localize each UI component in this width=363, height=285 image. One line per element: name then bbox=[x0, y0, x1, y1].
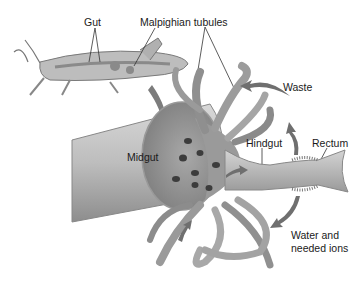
label-water-line1: Water and bbox=[291, 229, 339, 241]
reabsorb-arrow-up bbox=[286, 122, 298, 155]
label-waste: Waste bbox=[283, 81, 312, 93]
label-gut: Gut bbox=[84, 16, 101, 28]
label-malpighian-tubules: Malpighian tubules bbox=[140, 16, 228, 28]
label-water-line2: needed ions bbox=[291, 242, 348, 254]
grasshopper-illustration bbox=[14, 38, 188, 95]
label-rectum: Rectum bbox=[312, 137, 348, 149]
label-hindgut: Hindgut bbox=[246, 137, 282, 149]
reabsorb-arrow-down bbox=[270, 196, 300, 228]
label-midgut: Midgut bbox=[127, 151, 159, 163]
